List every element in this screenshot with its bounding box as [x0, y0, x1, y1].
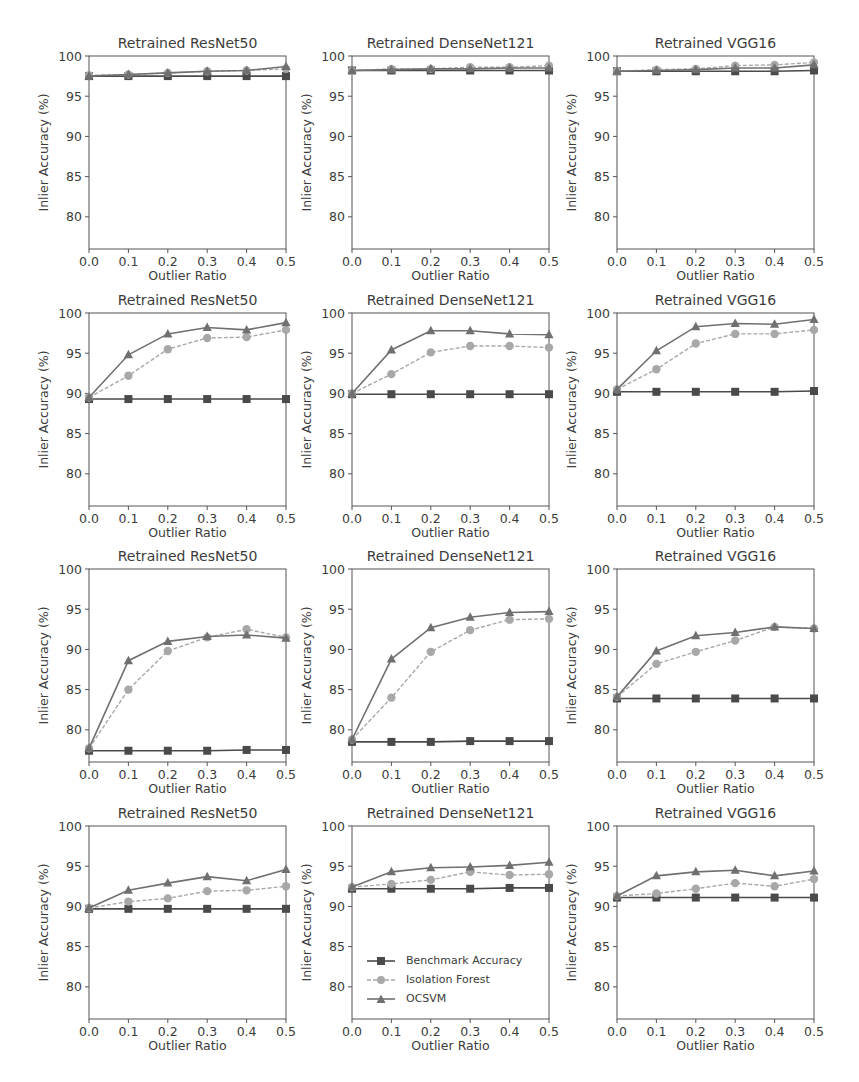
series-line-benchmark-accuracy [617, 391, 814, 392]
x-tick-label: 0.4 [237, 1024, 257, 1039]
subplot-title: Retrained VGG16 [617, 35, 814, 51]
square-marker-icon [427, 390, 435, 398]
y-tick-label: 85 [594, 169, 610, 184]
x-tick-label: 0.5 [276, 1024, 296, 1039]
y-tick-label: 80 [329, 209, 345, 224]
x-tick-label: 0.1 [646, 1024, 666, 1039]
y-tick-label: 80 [594, 979, 610, 994]
x-tick-label: 0.0 [342, 511, 362, 526]
y-tick-label: 80 [594, 209, 610, 224]
square-marker-icon [203, 747, 211, 755]
x-tick-label: 0.2 [158, 254, 178, 269]
y-tick-label: 90 [66, 129, 82, 144]
plot-area: 808590951000.00.10.20.30.40.5 [617, 56, 814, 249]
subplot-title: Retrained ResNet50 [89, 292, 286, 308]
y-tick-label: 100 [321, 306, 345, 321]
y-axis-label: Inlier Accuracy (%) [36, 329, 51, 489]
circle-marker-icon [810, 875, 818, 883]
y-axis-label: Inlier Accuracy (%) [564, 585, 579, 745]
x-tick-label: 0.4 [500, 767, 520, 782]
y-tick-label: 95 [329, 89, 345, 104]
y-tick-label: 80 [66, 209, 82, 224]
square-marker-icon [427, 738, 435, 746]
y-tick-label: 100 [321, 562, 345, 577]
square-marker-icon [466, 390, 474, 398]
x-tick-label: 0.2 [158, 1024, 178, 1039]
plot-area: 808590951000.00.10.20.30.40.5 [617, 826, 814, 1019]
circle-marker-icon [427, 876, 435, 884]
circle-marker-icon [282, 882, 290, 890]
y-tick-label: 95 [329, 859, 345, 874]
square-marker-icon [203, 395, 211, 403]
circle-marker-icon [427, 348, 435, 356]
y-tick-label: 95 [594, 602, 610, 617]
series-line-ocsvm [352, 331, 549, 394]
series-line-benchmark-accuracy [352, 888, 549, 889]
y-tick-label: 80 [594, 722, 610, 737]
x-tick-label: 0.5 [276, 254, 296, 269]
x-tick-label: 0.2 [686, 254, 706, 269]
y-tick-label: 85 [329, 169, 345, 184]
circle-marker-icon [387, 880, 395, 888]
circle-marker-icon [466, 342, 474, 350]
y-tick-label: 90 [594, 899, 610, 914]
x-axis-label: Outlier Ratio [617, 525, 814, 540]
figure-grid: Retrained ResNet50Inlier Accuracy (%)Out… [0, 0, 859, 1082]
x-tick-label: 0.3 [460, 511, 480, 526]
triangle-marker-icon [731, 318, 740, 327]
plot-area: 808590951000.00.10.20.30.40.5 [352, 569, 549, 762]
x-tick-label: 0.2 [686, 767, 706, 782]
series-line-benchmark-accuracy [352, 741, 549, 742]
square-marker-icon [771, 388, 779, 396]
circle-marker-icon [124, 372, 132, 380]
axes-frame [617, 56, 814, 249]
x-tick-label: 0.5 [276, 767, 296, 782]
subplot-title: Retrained DenseNet121 [352, 548, 549, 564]
series-line-ocsvm [617, 319, 814, 389]
y-tick-label: 90 [329, 642, 345, 657]
x-tick-label: 0.5 [539, 767, 559, 782]
circle-marker-icon [164, 345, 172, 353]
x-tick-label: 0.4 [237, 254, 257, 269]
y-tick-label: 95 [329, 602, 345, 617]
x-tick-label: 0.0 [607, 254, 627, 269]
square-marker-icon [282, 905, 290, 913]
square-marker-icon [124, 747, 132, 755]
x-tick-label: 0.1 [646, 511, 666, 526]
square-marker-icon [203, 905, 211, 913]
x-tick-label: 0.1 [118, 254, 138, 269]
x-tick-label: 0.1 [646, 767, 666, 782]
subplot-title: Retrained VGG16 [617, 805, 814, 821]
plot-area: 808590951000.00.10.20.30.40.5 [352, 313, 549, 506]
circle-marker-icon [164, 647, 172, 655]
plot-area: 808590951000.00.10.20.30.40.5 [617, 313, 814, 506]
x-tick-label: 0.4 [765, 254, 785, 269]
axes-frame [617, 313, 814, 506]
x-tick-label: 0.2 [686, 511, 706, 526]
y-axis-label: Inlier Accuracy (%) [299, 842, 314, 1002]
x-tick-label: 0.1 [381, 511, 401, 526]
legend-item-ocsvm: OCSVM [366, 989, 522, 1008]
axes-frame [89, 313, 286, 506]
x-axis-label: Outlier Ratio [89, 268, 286, 283]
circle-marker-icon [652, 365, 660, 373]
square-marker-icon [124, 395, 132, 403]
square-marker-icon [545, 737, 553, 745]
square-marker-icon [771, 694, 779, 702]
y-tick-label: 90 [329, 129, 345, 144]
square-marker-icon [810, 387, 818, 395]
triangle-marker-icon [203, 872, 212, 881]
circle-marker-icon [731, 330, 739, 338]
subplot-retrained-resnet50-r3: Retrained ResNet50Inlier Accuracy (%)Out… [89, 826, 286, 1019]
square-marker-icon [282, 746, 290, 754]
square-marker-icon [731, 894, 739, 902]
x-tick-label: 0.4 [765, 767, 785, 782]
x-tick-label: 0.4 [237, 511, 257, 526]
y-tick-label: 80 [66, 466, 82, 481]
legend-label: OCSVM [406, 992, 446, 1005]
x-tick-label: 0.5 [539, 511, 559, 526]
axes-frame [352, 56, 549, 249]
triangle-marker-icon [203, 322, 212, 331]
y-tick-label: 85 [329, 939, 345, 954]
triangle-marker-icon [366, 993, 396, 1005]
